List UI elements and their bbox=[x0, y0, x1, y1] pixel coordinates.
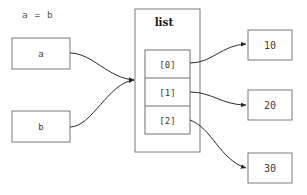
list-cell-2-label: [2] bbox=[159, 116, 175, 126]
list-cell-2[interactable]: [2] bbox=[159, 116, 175, 126]
connector-a-to-list bbox=[70, 53, 134, 80]
value-box-30[interactable]: 30 bbox=[248, 153, 292, 183]
list-cells: [0] [1] [2] bbox=[145, 50, 190, 134]
list-cell-0[interactable]: [0] bbox=[159, 60, 175, 70]
diagram-svg: a = b a b list [0] [1] bbox=[0, 0, 307, 195]
variable-box-b[interactable]: b bbox=[12, 111, 70, 142]
expression-title: a = b bbox=[22, 9, 53, 20]
value-box-20-label: 20 bbox=[264, 100, 276, 111]
value-box-30-label: 30 bbox=[264, 163, 276, 174]
connector-b-to-list bbox=[70, 80, 134, 127]
list-cell-1[interactable]: [1] bbox=[159, 88, 175, 98]
variable-box-b-label: b bbox=[38, 122, 43, 132]
value-box-20[interactable]: 20 bbox=[248, 90, 292, 120]
list-cell-1-label: [1] bbox=[159, 88, 175, 98]
variable-box-a[interactable]: a bbox=[12, 38, 70, 69]
list-cell-0-label: [0] bbox=[159, 60, 175, 70]
list-container-label: list bbox=[155, 16, 174, 28]
value-box-10[interactable]: 10 bbox=[248, 30, 292, 60]
diagram-canvas: a = b a b list [0] [1] bbox=[0, 0, 307, 195]
variable-box-a-label: a bbox=[38, 49, 43, 59]
value-box-10-label: 10 bbox=[264, 40, 276, 51]
